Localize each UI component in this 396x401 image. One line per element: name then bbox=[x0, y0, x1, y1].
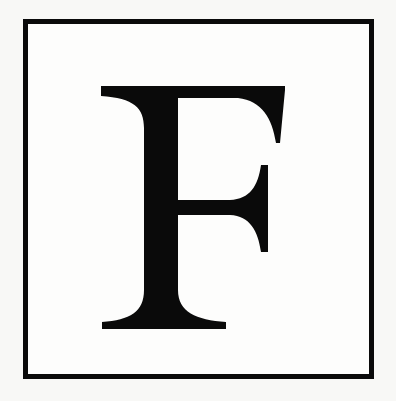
drop-cap-letter-f-glyph bbox=[0, 0, 396, 401]
drop-cap: F bbox=[0, 0, 396, 401]
scanned-page: F bbox=[0, 0, 396, 401]
